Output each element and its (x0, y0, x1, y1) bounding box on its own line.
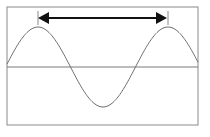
arrowhead-right-icon (156, 12, 167, 24)
wavelength-arrow (38, 12, 167, 24)
arrowhead-left-icon (38, 12, 49, 24)
wavelength-diagram (0, 0, 210, 137)
